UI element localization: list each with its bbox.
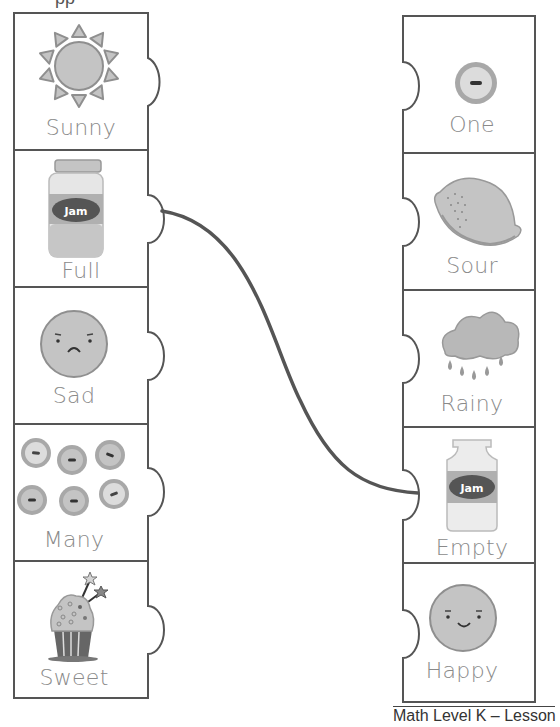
label-sad: Sad (14, 383, 134, 408)
footer-lesson: Math Level K – Lesson 7 (393, 707, 560, 725)
svg-text:Jam: Jam (64, 205, 88, 218)
many-buttons-icon (17, 438, 129, 516)
label-sweet: Sweet (14, 665, 134, 690)
label-many: Many (14, 527, 134, 552)
sad-face-icon (41, 311, 107, 377)
label-happy: Happy (403, 658, 521, 683)
empty-jam-jar-icon: Jam (447, 440, 497, 531)
one-button-icon (455, 62, 497, 104)
happy-face-icon (430, 585, 496, 651)
label-full: Full (14, 258, 148, 283)
label-sour: Sour (403, 253, 541, 278)
sun-icon (38, 25, 120, 107)
matching-worksheet: pp (0, 0, 560, 727)
label-empty: Empty (403, 535, 541, 560)
rain-cloud-icon (443, 312, 519, 380)
svg-text:Jam: Jam (460, 482, 484, 495)
worksheet-graphics: Jam (0, 0, 560, 727)
label-one: One (403, 112, 541, 137)
cupcake-icon (48, 572, 108, 662)
match-line-full-to-empty[interactable] (162, 211, 418, 493)
label-rainy: Rainy (403, 391, 541, 416)
full-jam-jar-icon: Jam (49, 160, 103, 257)
label-sunny: Sunny (14, 115, 148, 140)
lemon-icon (435, 178, 521, 245)
